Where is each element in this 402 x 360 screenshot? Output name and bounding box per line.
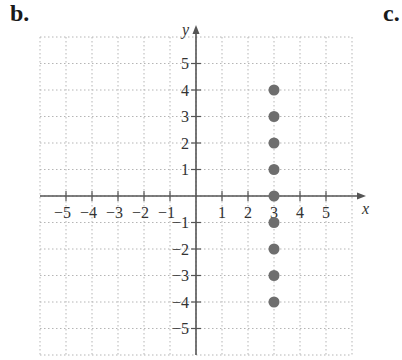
y-tick-label: −3 (172, 267, 189, 284)
y-tick-label: −5 (172, 320, 189, 337)
y-tick-label: −1 (172, 214, 189, 231)
data-point (269, 138, 280, 149)
data-point (269, 85, 280, 96)
y-tick-label: 3 (181, 108, 189, 125)
data-point (269, 217, 280, 228)
x-axis-arrow-icon (357, 193, 366, 200)
data-point (269, 244, 280, 255)
x-axis-label: x (361, 200, 369, 217)
data-point (269, 297, 280, 308)
x-tick-label: 4 (296, 204, 304, 221)
data-point (269, 191, 280, 202)
y-axis-arrow-icon (193, 25, 200, 34)
x-tick-label: 5 (322, 204, 330, 221)
y-tick-label: 1 (181, 161, 189, 178)
y-tick-label: 5 (181, 55, 189, 72)
data-point (269, 270, 280, 281)
x-tick-label: −2 (132, 204, 149, 221)
x-tick-label: 1 (218, 204, 226, 221)
data-point (269, 164, 280, 175)
y-tick-label: −4 (172, 294, 189, 311)
data-point (269, 111, 280, 122)
x-tick-label: −5 (54, 204, 71, 221)
y-tick-label: 4 (181, 82, 189, 99)
y-axis-label: y (180, 21, 190, 39)
x-tick-label: 2 (244, 204, 252, 221)
x-tick-label: −3 (106, 204, 123, 221)
y-tick-label: 2 (181, 135, 189, 152)
coordinate-plane: xy−5−4−3−2−112345−5−4−3−2−112345 (0, 0, 402, 360)
y-tick-label: −2 (172, 241, 189, 258)
x-tick-label: −4 (80, 204, 97, 221)
